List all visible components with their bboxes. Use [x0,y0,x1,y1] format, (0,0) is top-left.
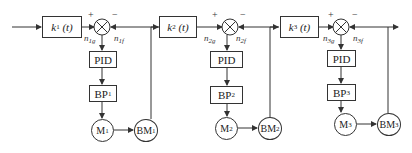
pid-controller-1: PID [89,51,117,68]
set-signal-n2g: n2g [204,33,216,45]
motor-m3: M3 [334,113,357,136]
gain-block-k1: k1 (t) [42,16,82,38]
plus-sign-2: + [212,9,218,20]
converter-bp2: BP2 [210,86,243,104]
gain-block-k2: k2 (t) [159,16,197,38]
set-signal-n1g: n1g [84,33,96,45]
plus-sign-1: + [88,9,94,20]
motor-m1: M1 [91,119,114,142]
feedback-signal-n1f: n1f [114,33,124,45]
feedback-signal-n2f: n2f [236,33,246,45]
plus-sign-3: + [328,9,334,20]
encoder-bm1: BM1 [134,119,158,142]
pid-controller-2: PID [210,51,243,68]
pid-controller-3: PID [327,50,356,67]
feedback-signal-n3f: n3f [353,33,363,45]
set-signal-n3g: n3g [323,33,335,45]
minus-sign-3: − [352,9,358,20]
encoder-bm3: BM3 [377,113,401,136]
converter-bp1: BP1 [89,85,117,102]
encoder-bm2: BM2 [258,117,282,140]
minus-sign-2: − [240,9,246,20]
gain-block-k3: k3 (t) [280,16,319,38]
motor-m2: M2 [215,117,238,140]
converter-bp3: BP3 [327,84,356,101]
minus-sign-1: − [112,9,118,20]
